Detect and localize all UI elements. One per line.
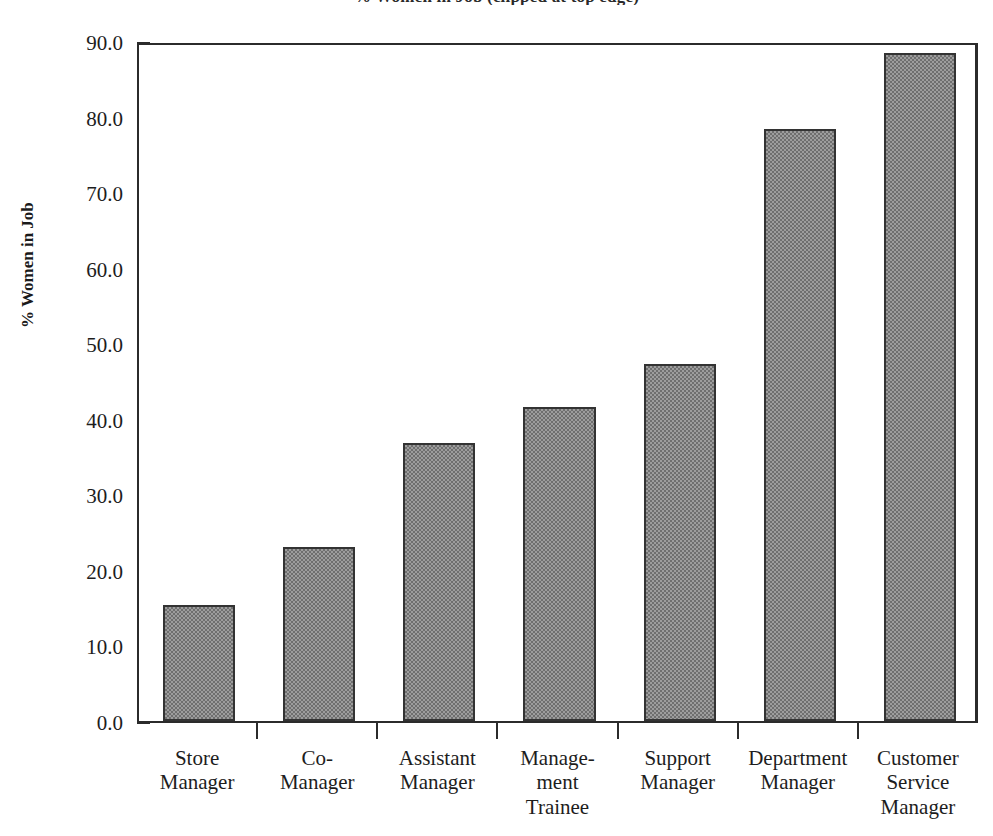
x-tick-label-line: Manager bbox=[257, 770, 377, 794]
y-tick-label: 80.0 bbox=[51, 108, 123, 129]
x-tick-label-line: Manage- bbox=[497, 746, 617, 770]
plot-area bbox=[137, 43, 978, 723]
x-tick-label: CustomerServiceManager bbox=[858, 746, 978, 819]
y-tick-label: 40.0 bbox=[51, 410, 123, 431]
x-tick-label: StoreManager bbox=[137, 746, 257, 795]
x-tick bbox=[376, 723, 378, 739]
y-tick-label: 50.0 bbox=[51, 335, 123, 356]
x-tick-label: Co-Manager bbox=[257, 746, 377, 795]
y-tick-label: 60.0 bbox=[51, 259, 123, 280]
bar bbox=[163, 605, 235, 721]
bar bbox=[283, 547, 355, 721]
bar bbox=[523, 407, 595, 721]
bar-chart-figure: % Women in Job (clipped at top edge) % W… bbox=[0, 0, 993, 836]
x-tick-label-line: Customer bbox=[858, 746, 978, 770]
bar bbox=[403, 443, 475, 721]
x-tick-label-line: Store bbox=[137, 746, 257, 770]
x-tick-label-line: Service bbox=[858, 770, 978, 794]
x-tick-label-line: Department bbox=[738, 746, 858, 770]
x-tick-label-line: Manager bbox=[858, 795, 978, 819]
x-tick-label: DepartmentManager bbox=[738, 746, 858, 795]
y-tick-label: 0.0 bbox=[51, 713, 123, 734]
x-tick-label-line: Trainee bbox=[497, 795, 617, 819]
x-tick-label: SupportManager bbox=[618, 746, 738, 795]
x-tick-label-line: Manager bbox=[738, 770, 858, 794]
x-tick-label-line: ment bbox=[497, 770, 617, 794]
y-tick-label: 30.0 bbox=[51, 486, 123, 507]
x-tick-label: AssistantManager bbox=[377, 746, 497, 795]
x-tick bbox=[256, 723, 258, 739]
x-tick bbox=[617, 723, 619, 739]
x-tick bbox=[496, 723, 498, 739]
y-tick-label: 70.0 bbox=[51, 184, 123, 205]
bar bbox=[644, 364, 716, 721]
page-title: % Women in Job (clipped at top edge) bbox=[0, 0, 993, 5]
y-tick-label: 90.0 bbox=[51, 33, 123, 54]
bar bbox=[764, 129, 836, 721]
y-tick-label: 10.0 bbox=[51, 637, 123, 658]
y-axis-title: % Women in Job bbox=[18, 108, 38, 328]
x-tick-label-line: Assistant bbox=[377, 746, 497, 770]
x-tick-label-line: Manager bbox=[618, 770, 738, 794]
x-tick-label-line: Manager bbox=[377, 770, 497, 794]
x-tick-label-line: Support bbox=[618, 746, 738, 770]
x-tick-label-line: Co- bbox=[257, 746, 377, 770]
bar bbox=[884, 53, 956, 721]
y-tick-label: 20.0 bbox=[51, 561, 123, 582]
x-tick bbox=[737, 723, 739, 739]
x-tick-label: Manage-mentTrainee bbox=[497, 746, 617, 819]
x-tick bbox=[857, 723, 859, 739]
x-tick-label-line: Manager bbox=[137, 770, 257, 794]
